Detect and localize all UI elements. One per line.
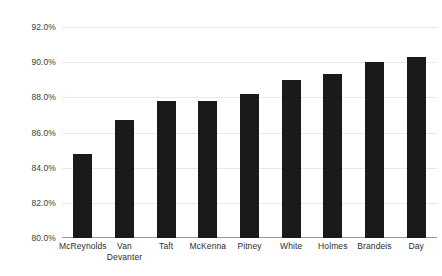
y-axis-tick-label: 92.0% [31, 22, 56, 32]
bar[interactable] [282, 80, 301, 238]
bar[interactable] [240, 94, 259, 238]
x-axis-tick-label-line: Devanter [83, 252, 167, 263]
bar[interactable] [115, 120, 134, 238]
y-axis-tick-label: 84.0% [31, 163, 56, 173]
y-axis-tick-label: 82.0% [31, 198, 56, 208]
x-axis-tick-label-line: Day [408, 241, 423, 251]
bar[interactable] [73, 154, 92, 238]
bar[interactable] [198, 101, 217, 238]
x-axis-tick-labels: McReynoldsVanDevanterTaftMcKennaPitneyWh… [62, 241, 437, 276]
bars-layer [62, 27, 437, 238]
bar[interactable] [365, 62, 384, 238]
bar[interactable] [407, 57, 426, 238]
x-axis-tick-label: Day [374, 241, 442, 252]
bar[interactable] [323, 74, 342, 238]
y-axis-tick-label: 86.0% [31, 128, 56, 138]
y-axis-tick-labels: 80.0%82.0%84.0%86.0%88.0%90.0%92.0% [0, 27, 56, 238]
bar-chart: 80.0%82.0%84.0%86.0%88.0%90.0%92.0% McRe… [0, 0, 442, 276]
y-axis-tick-label: 90.0% [31, 57, 56, 67]
y-axis-tick-label: 88.0% [31, 92, 56, 102]
bar[interactable] [157, 101, 176, 238]
